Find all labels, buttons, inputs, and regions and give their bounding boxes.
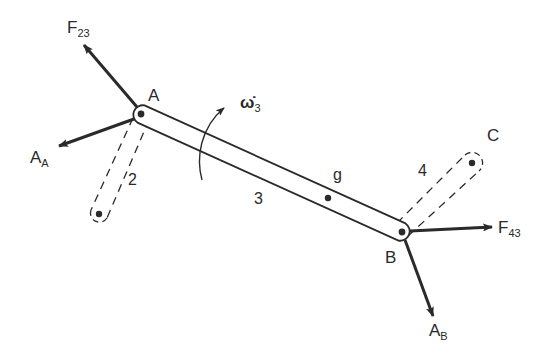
force-arrow-aa <box>59 119 134 146</box>
pin-a <box>138 111 145 118</box>
force-arrow-f43 <box>410 227 492 231</box>
pin-b <box>399 229 406 236</box>
label-link-4: 4 <box>418 162 427 179</box>
pin-c <box>469 160 475 166</box>
label-link-2: 2 <box>128 171 137 188</box>
link-2 <box>90 118 149 222</box>
force-arrow-f23 <box>84 45 137 107</box>
label-omega-dot-3: ω̇3 <box>240 93 261 114</box>
pin-o2 <box>96 211 102 217</box>
center-of-mass-g <box>325 195 331 201</box>
label-f23: F23 <box>67 18 90 39</box>
label-ab: AB <box>429 321 448 342</box>
label-point-c: C <box>487 126 499 145</box>
force-arrow-ab <box>405 240 433 316</box>
label-g: g <box>333 166 342 183</box>
label-f43: F43 <box>498 218 521 239</box>
label-point-a: A <box>148 86 160 105</box>
linkage-diagram: F23 AA F43 AB A B C g 2 3 4 ω̇3 <box>0 0 552 360</box>
label-point-b: B <box>385 248 396 267</box>
link-3 <box>133 105 409 240</box>
label-link-3: 3 <box>254 190 263 207</box>
label-aa: AA <box>30 148 49 169</box>
